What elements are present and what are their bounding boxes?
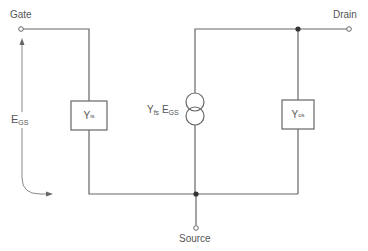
drain-junction-dot [295,26,300,31]
yis-label: Yis [71,101,107,130]
drain-label: Drain [333,10,357,20]
current-source-circle-top [186,93,204,111]
egs-label: EGS [11,113,28,127]
egs-arrowhead-right [46,192,53,197]
current-source-label: Yfs EGS [147,105,179,116]
drain-terminal [347,27,352,32]
yis-subscript: is [90,113,94,119]
yis-bottom-wire [89,130,298,194]
gate-terminal [19,27,24,32]
egs-multiplier-subscript: GS [169,109,179,116]
drain-wire [195,29,347,93]
gate-label: Gate [10,10,32,20]
source-label: Source [179,234,211,244]
yis-symbol: Y [83,110,90,121]
yos-label: Yos [282,100,314,129]
yfs-subscript: fs [154,109,159,116]
yos-subscript: os [298,112,304,118]
egs-subscript: GS [18,119,28,126]
source-terminal [194,226,199,231]
yos-symbol: Y [291,109,298,120]
gate-wire [23,29,89,101]
current-source-circle-bottom [186,107,204,125]
source-junction-dot [193,191,198,196]
egs-arrowhead-up [20,38,25,45]
yfs-symbol: Y [147,104,154,115]
egs-multiplier-symbol: E [162,104,169,115]
